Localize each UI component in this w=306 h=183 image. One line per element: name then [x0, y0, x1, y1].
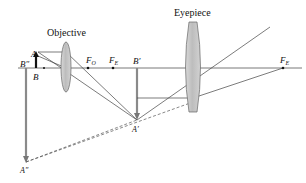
- focal-point-eyepiece-left: [112, 67, 115, 70]
- eyepiece-label: Eyepiece: [174, 7, 211, 18]
- label-F-eyepiece-left: FE: [108, 55, 119, 66]
- eyepiece-lens: [186, 22, 201, 112]
- objective-ray-parallel-b: [66, 52, 137, 120]
- label-A-prime: A′: [131, 125, 139, 134]
- label-B-double-prime: B″: [20, 59, 29, 69]
- eyepiece-ray-parallel-out: [193, 68, 283, 98]
- objective-lens: [61, 42, 71, 92]
- focal-point-objective: [87, 67, 90, 70]
- virtual-ray-2: [26, 102, 193, 162]
- object-point-marker: [43, 67, 45, 69]
- focal-point-eyepiece-right: [282, 67, 285, 70]
- label-F-objective: FO: [85, 55, 97, 66]
- eyepiece-ray-center: [137, 27, 270, 120]
- intermediate-image-arrow: [134, 68, 140, 120]
- label-B-prime: B′: [133, 56, 141, 66]
- label-B: B: [33, 72, 39, 82]
- label-A-double-prime: A″: [19, 166, 29, 175]
- final-image-arrow: [23, 68, 29, 163]
- label-A: A: [30, 49, 37, 59]
- label-F-eyepiece-right: FE: [279, 55, 290, 66]
- objective-label: Objective: [47, 27, 86, 38]
- microscope-ray-diagram: Objective Eyepiece A B B″ B′ A′ A″ FO FE…: [0, 0, 306, 183]
